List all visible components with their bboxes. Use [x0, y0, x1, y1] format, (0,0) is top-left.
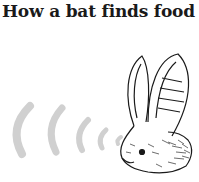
bat-illustration-icon: [112, 48, 199, 182]
diagram-title: How a bat finds food: [2, 1, 195, 21]
sound-waves-icon: [0, 100, 130, 182]
